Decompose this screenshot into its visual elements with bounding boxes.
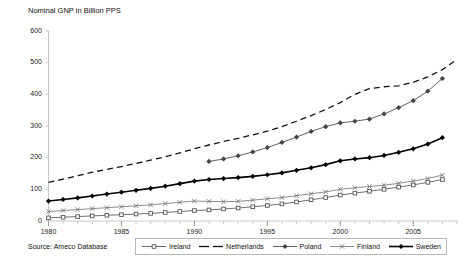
- x-tick-label: 1990: [174, 228, 214, 235]
- legend-label: Finland: [357, 243, 380, 250]
- legend-item-netherlands[interactable]: Netherlands: [198, 241, 264, 252]
- y-tick-label: 600: [16, 27, 42, 34]
- legend-item-poland[interactable]: Poland: [272, 241, 322, 252]
- series-netherlands: [49, 60, 458, 183]
- y-tick-label: 300: [16, 122, 42, 129]
- y-tick-label: 0: [16, 217, 42, 224]
- y-tick-label: 500: [16, 58, 42, 65]
- legend-label: Poland: [300, 243, 322, 250]
- legend-label: Sweden: [416, 243, 441, 250]
- chart-container: Nominal GNP in Billion PPS 0100200300400…: [0, 0, 466, 274]
- x-tick-label: 1995: [247, 228, 287, 235]
- legend-marker-sweden: [388, 241, 414, 252]
- y-tick-label: 400: [16, 90, 42, 97]
- legend-label: Netherlands: [226, 243, 264, 250]
- x-tick-label: 1985: [101, 228, 141, 235]
- legend-marker-ireland: [141, 241, 167, 252]
- x-tick-label: 1980: [29, 228, 69, 235]
- y-tick-label: 100: [16, 185, 42, 192]
- legend-item-ireland[interactable]: Ireland: [141, 241, 190, 252]
- legend-item-sweden[interactable]: Sweden: [388, 241, 441, 252]
- legend-label: Ireland: [169, 243, 190, 250]
- x-tick-label: 2000: [320, 228, 360, 235]
- legend-marker-poland: [272, 241, 298, 252]
- legend-item-finland[interactable]: Finland: [329, 241, 380, 252]
- legend-marker-finland: [329, 241, 355, 252]
- series-ireland: [47, 178, 445, 220]
- chart-legend: IrelandNetherlandsPolandFinlandSweden: [135, 238, 447, 255]
- legend-marker-netherlands: [198, 241, 224, 252]
- series-poland: [206, 76, 445, 164]
- y-tick-label: 200: [16, 153, 42, 160]
- source-note: Source: Ameco Database: [28, 243, 107, 250]
- series-sweden: [46, 135, 445, 204]
- x-tick-label: 2005: [393, 228, 433, 235]
